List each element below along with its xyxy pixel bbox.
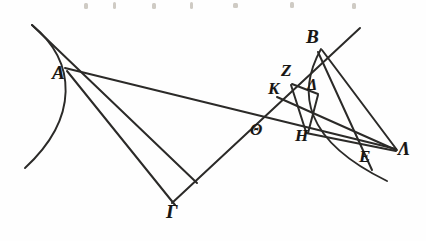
point-label-a: A [52, 63, 65, 82]
geometric-figure-canvas: ABΓΔEZHΘKΛ [0, 0, 426, 241]
point-label-z: Z [281, 62, 291, 79]
segment-Gamma-to-B-through-Theta [172, 28, 360, 203]
paper-speck [233, 3, 238, 8]
segment-upper-left-ray-through-A [32, 25, 197, 183]
paper-speck [290, 2, 294, 8]
arc-left-through-A [25, 25, 66, 168]
point-label-delta: Δ [307, 77, 317, 93]
paper-speck [190, 2, 193, 9]
point-label-b: B [306, 27, 319, 46]
point-label-theta: Θ [250, 122, 262, 138]
segment-B-to-Lambda [322, 50, 397, 150]
figure-svg [0, 0, 426, 241]
paper-speck-group [84, 2, 356, 9]
point-label-lambda: Λ [398, 140, 410, 158]
segment-A-to-Lambda [65, 68, 396, 149]
line-segment-group [32, 25, 397, 205]
paper-speck [352, 3, 356, 9]
segment-H-to-Lambda [306, 133, 396, 151]
paper-speck [152, 3, 156, 9]
point-label-k: K [268, 80, 279, 97]
point-label-e: E [359, 148, 370, 165]
paper-speck [113, 2, 116, 9]
point-label-h: H [295, 127, 308, 144]
paper-speck [84, 3, 88, 9]
point-label-gamma: Γ [166, 202, 177, 221]
